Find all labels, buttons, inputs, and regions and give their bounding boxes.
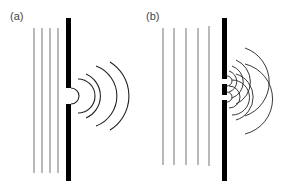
diffracted-waves-slit2: [227, 64, 273, 134]
barrier-a: [66, 18, 71, 181]
panel-b: [163, 18, 273, 181]
incident-wavefronts-b: [163, 26, 209, 166]
panel-a: [34, 18, 129, 181]
incident-wavefronts-a: [34, 28, 58, 173]
diffraction-diagram: [0, 0, 281, 189]
barrier-b: [222, 18, 227, 181]
diffracted-waves-a: [71, 62, 129, 130]
